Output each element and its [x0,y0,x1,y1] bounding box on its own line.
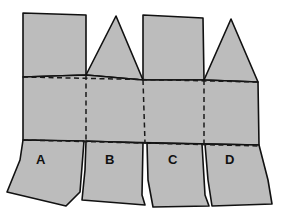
flap-label-b: B [105,152,114,167]
flap-label-c: C [168,152,178,167]
flap-b [82,141,145,205]
top-panel-rectangle-3 [143,15,204,80]
paper-net-diagram: A B C D [0,0,286,217]
top-panel-triangle-2 [86,16,143,80]
flap-d [205,144,272,206]
top-panel-triangle-4 [204,19,258,82]
middle-band [23,75,259,145]
top-panel-rectangle-1 [23,13,86,77]
flap-label-d: D [225,152,234,167]
net-svg: A B C D [0,0,286,217]
flap-c [147,143,209,207]
flap-label-a: A [36,152,46,167]
flap-a [7,140,84,206]
